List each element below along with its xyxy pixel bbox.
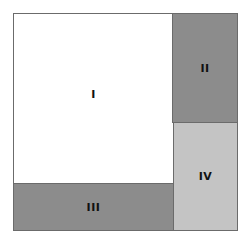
outer-frame	[13, 13, 238, 231]
